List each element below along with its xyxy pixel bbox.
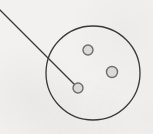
diagram-canvas	[0, 0, 153, 134]
leader-line	[0, 10, 78, 88]
diagram-figure: es	[0, 0, 153, 134]
node-lower-left-icon	[73, 83, 83, 93]
node-right-icon	[107, 67, 118, 78]
node-upper-icon	[83, 45, 93, 55]
outer-circle	[46, 26, 140, 120]
